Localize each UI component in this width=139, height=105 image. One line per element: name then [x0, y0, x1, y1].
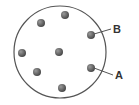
dot	[58, 84, 66, 92]
dot	[18, 49, 26, 57]
dot	[87, 64, 95, 72]
dot	[55, 48, 63, 56]
dot	[61, 11, 69, 19]
circle-dots-diagram: B A	[0, 0, 139, 105]
dot	[87, 31, 95, 39]
dot	[37, 19, 45, 27]
label-a: A	[115, 69, 123, 81]
label-b: B	[113, 23, 121, 35]
dot	[33, 68, 41, 76]
